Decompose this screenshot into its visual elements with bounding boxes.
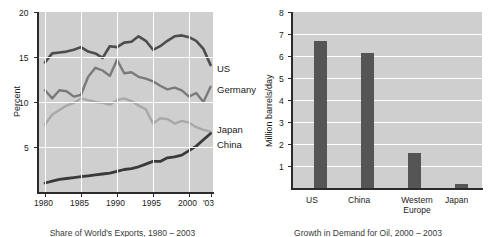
right-chart-ytick-1: 1 <box>279 163 284 172</box>
bar-label-western-europe: WesternEurope <box>394 196 440 216</box>
right-chart-ytick-5: 5 <box>279 75 284 84</box>
left-chart-vgridline-1990 <box>117 12 118 192</box>
left-chart-xtick-mark-1990 <box>117 193 118 197</box>
bar-label-china: China <box>348 196 370 205</box>
left-chart-vgridline-1995 <box>153 12 154 192</box>
left-chart-x-axis-line <box>37 192 214 194</box>
left-chart-vgridline-1985 <box>81 12 82 192</box>
series-label-china: China <box>217 140 242 150</box>
left-chart-ytick-20: 20 <box>19 9 28 18</box>
left-chart-gridline-10 <box>38 102 213 103</box>
left-chart-ytick-10: 10 <box>19 99 28 108</box>
right-chart-x-axis-line <box>291 188 483 190</box>
right-chart-caption: Growth in Demand for Oil, 2000 – 2003 <box>245 229 491 237</box>
left-chart-vgridline-2000 <box>189 12 190 192</box>
right-chart-gridline-7 <box>292 34 482 35</box>
bar-us <box>314 41 327 188</box>
right-chart-y-axis-line <box>291 12 293 189</box>
right-chart-y-axis-title: Million barrels/day <box>265 74 274 147</box>
left-chart-xtick-mark-2000 <box>189 193 190 197</box>
right-chart-ytick-4: 4 <box>279 97 284 106</box>
bar-china <box>361 53 374 188</box>
right-chart-plot-area <box>292 12 482 188</box>
series-label-japan: Japan <box>217 125 243 135</box>
left-chart-caption: Share of World's Exports, 1980 – 2003 <box>0 229 245 237</box>
left-chart-plot-area <box>38 12 213 192</box>
right-chart-ytick-2: 2 <box>279 141 284 150</box>
right-chart-ytick-6: 6 <box>279 53 284 62</box>
series-line-germany <box>45 60 211 102</box>
two-chart-figure: Percent 20 15 10 5 <box>0 0 491 237</box>
line-chart-panel: Percent 20 15 10 5 <box>0 0 245 237</box>
left-chart-ytick-5: 5 <box>24 144 29 153</box>
left-chart-y-axis-line <box>37 12 39 193</box>
bar-label-us: US <box>306 196 318 205</box>
series-line-us <box>45 35 211 65</box>
series-line-japan <box>45 98 211 131</box>
right-chart-ytick-3: 3 <box>279 119 284 128</box>
right-chart-ytick-7: 7 <box>279 31 284 40</box>
series-line-china <box>45 134 211 184</box>
left-chart-vgridline-1980 <box>45 12 46 192</box>
bar-label-japan: Japan <box>445 196 468 205</box>
bar-western-europe <box>408 153 421 188</box>
left-chart-xtick-1995: 1995 <box>142 199 161 208</box>
left-chart-xtick-2003: '03 <box>203 199 214 208</box>
left-chart-xtick-mark-1985 <box>81 193 82 197</box>
left-chart-xtick-2000: 2000 <box>178 199 197 208</box>
bar-chart-panel: Million barrels/day 8 7 6 5 4 3 2 1 <box>245 0 491 237</box>
left-chart-xtick-mark-2003 <box>211 193 212 197</box>
left-chart-xtick-mark-1980 <box>45 193 46 197</box>
left-chart-gridline-15 <box>38 57 213 58</box>
left-chart-xtick-1990: 1990 <box>106 199 125 208</box>
left-chart-ytick-15: 15 <box>19 54 28 63</box>
right-chart-ytick-8: 8 <box>279 9 284 18</box>
left-chart-xtick-1980: 1980 <box>34 199 53 208</box>
series-label-us: US <box>217 64 230 74</box>
left-chart-xtick-mark-1995 <box>153 193 154 197</box>
left-chart-gridline-5 <box>38 147 213 148</box>
left-chart-xtick-1985: 1985 <box>70 199 89 208</box>
